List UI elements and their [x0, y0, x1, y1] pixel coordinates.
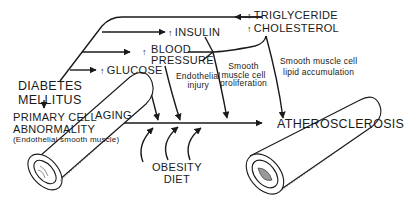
up-arrow-icon: ↑ — [247, 11, 252, 21]
cholesterol-label: ↑CHOLESTEROL — [247, 23, 339, 34]
smooth-muscle-lipid-label: Smooth muscle cell lipid accumulation — [280, 57, 357, 76]
diet-text: DIET — [152, 174, 202, 185]
bp-line2: PRESSURE — [151, 55, 214, 66]
glucose-label: ↑GLUCOSE — [100, 65, 163, 76]
diabetes-label: DIABETES MELLITUS — [18, 80, 82, 106]
atherosclerosis-label: ATHEROSCLEROSIS — [277, 118, 404, 131]
up-arrow-icon: ↑ — [247, 24, 252, 34]
aging-label: AGING — [95, 110, 132, 121]
smooth-muscle-proliferation-label: Smooth muscle cell proliferation — [220, 62, 267, 88]
obesity-diet-label: OBESITY DIET — [152, 162, 202, 185]
triglyceride-label: ↑TRIGLYCERIDE — [247, 10, 338, 21]
insulin-text: INSULIN — [175, 26, 221, 38]
triglyceride-text: TRIGLYCERIDE — [254, 9, 338, 21]
diabetes-line1: DIABETES — [18, 80, 82, 93]
primary-line2: ABNORMALITY — [13, 124, 119, 135]
up-arrow-icon: ↑ — [100, 66, 105, 76]
endothelial-injury-label: Endothelial injury — [176, 72, 220, 89]
up-arrow-icon: ↑ — [142, 48, 147, 57]
cholesterol-text: CHOLESTEROL — [254, 22, 339, 34]
diabetes-line2: MELLITUS — [18, 94, 82, 107]
primary-line3: (Endothelial smooth muscle) — [13, 136, 119, 144]
smc-prolif-line3: proliferation — [220, 79, 267, 88]
atherosclerotic-vessel-icon — [239, 97, 381, 201]
blood-pressure-label: ↑ BLOOD PRESSURE — [142, 44, 214, 66]
obesity-text: OBESITY — [152, 162, 202, 173]
up-arrow-icon: ↑ — [168, 28, 173, 38]
smc-lipid-line1: Smooth muscle cell — [280, 57, 357, 66]
insulin-label: ↑INSULIN — [168, 27, 220, 38]
smc-lipid-line2: lipid accumulation — [280, 68, 357, 77]
endo-line2: injury — [176, 81, 220, 90]
